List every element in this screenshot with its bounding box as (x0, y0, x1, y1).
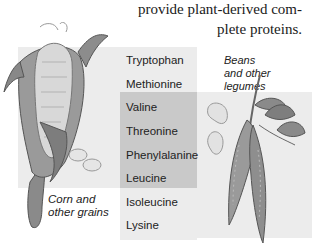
amino-acid-methionine: Methionine (126, 78, 182, 90)
caption-line-2: plete proteins. (132, 19, 302, 39)
amino-acid-valine: Valine (126, 101, 157, 113)
caption-line-1: provide plant-derived com- (132, 0, 302, 19)
caption-text: provide plant-derived com- plete protein… (132, 0, 302, 39)
amino-acid-leucine: Leucine (126, 172, 166, 184)
amino-acid-lysine: Lysine (126, 219, 159, 231)
amino-acid-tryptophan: Tryptophan (126, 54, 184, 66)
corn-label: Corn and other grains (48, 193, 109, 219)
corn-kernels-icon (66, 145, 106, 175)
amino-acid-phenylalanine: Phenylalanine (126, 149, 198, 161)
amino-acid-threonine: Threonine (126, 125, 178, 137)
pea-pods-icon (225, 75, 312, 250)
amino-acid-isoleucine: Isoleucine (126, 196, 178, 208)
